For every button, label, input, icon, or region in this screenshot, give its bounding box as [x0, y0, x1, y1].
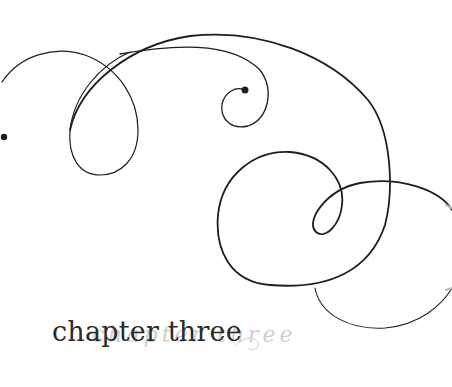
flourish-dot-spiral	[242, 87, 249, 94]
chapter-title: chapter three	[52, 316, 242, 347]
flourish-lower-sweep	[315, 288, 452, 328]
chapter-title-page: chapter three chapter three	[0, 0, 452, 387]
flourish-left-loop	[2, 51, 138, 175]
flourish-right-hook	[446, 205, 452, 290]
flourish-dot-left	[1, 134, 7, 140]
